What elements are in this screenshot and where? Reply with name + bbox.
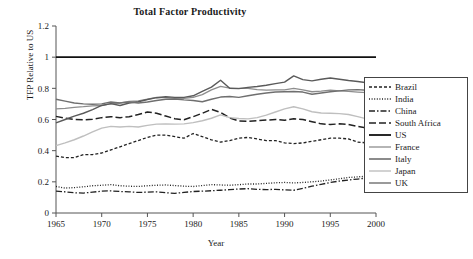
y-tick-label: 0.6 [38, 115, 50, 125]
legend-swatch-icon [368, 118, 392, 128]
y-tick-label: 1.2 [38, 21, 49, 31]
legend-item-uk[interactable]: UK [368, 177, 465, 189]
y-tick-label: 1 [45, 52, 50, 62]
y-tick-label: 0.2 [38, 177, 49, 187]
legend-item-france[interactable]: France [368, 141, 465, 153]
series-line-japan [56, 107, 376, 146]
y-tick-label: 0.4 [38, 146, 50, 156]
legend-label: India [395, 94, 414, 104]
legend-swatch-icon [368, 94, 392, 104]
x-tick-label: 1965 [47, 219, 66, 229]
legend-swatch-icon [368, 166, 392, 176]
legend-swatch-icon [368, 178, 392, 188]
legend-label: US [395, 130, 407, 140]
legend-label: South Africa [395, 118, 441, 128]
axes-group [52, 26, 376, 217]
legend-swatch-icon [368, 154, 392, 164]
series-line-india [56, 176, 376, 188]
legend-swatch-icon [368, 82, 392, 92]
legend-label: Japan [395, 166, 416, 176]
series-group [56, 57, 376, 193]
chart-figure: Total Factor Productivity TFP Relative t… [0, 0, 473, 259]
series-line-brazil [56, 134, 376, 158]
x-tick-label: 1985 [230, 219, 249, 229]
axis-spine [56, 26, 376, 213]
legend-item-south-africa[interactable]: South Africa [368, 117, 465, 129]
legend-label: Italy [395, 154, 412, 164]
y-tick-label: 0 [45, 208, 50, 218]
legend-item-china[interactable]: China [368, 105, 465, 117]
legend-item-us[interactable]: US [368, 129, 465, 141]
legend-swatch-icon [368, 142, 392, 152]
x-tick-label: 1995 [321, 219, 340, 229]
legend-label: UK [395, 178, 408, 188]
legend-label: China [395, 106, 417, 116]
y-axis-label: TFP Relative to US [25, 0, 35, 135]
x-tick-label: 2000 [367, 219, 386, 229]
legend-swatch-icon [368, 130, 392, 140]
legend-label: Brazil [395, 82, 417, 92]
x-tick-label: 1980 [184, 219, 203, 229]
tick-labels-group: 00.20.40.60.811.219651970197519801985199… [38, 21, 386, 229]
legend-item-brazil[interactable]: Brazil [368, 81, 465, 93]
chart-legend: BrazilIndiaChinaSouth AfricaUSFranceItal… [364, 77, 468, 193]
series-line-china [56, 177, 376, 193]
x-tick-label: 1975 [138, 219, 157, 229]
legend-label: France [395, 142, 420, 152]
legend-item-japan[interactable]: Japan [368, 165, 465, 177]
y-tick-label: 0.8 [38, 84, 50, 94]
x-tick-label: 1970 [93, 219, 112, 229]
chart-title: Total Factor Productivity [0, 6, 380, 17]
legend-item-italy[interactable]: Italy [368, 153, 465, 165]
series-line-south-africa [56, 109, 376, 128]
series-line-uk [56, 90, 376, 105]
x-tick-label: 1990 [276, 219, 295, 229]
legend-swatch-icon [368, 106, 392, 116]
legend-item-india[interactable]: India [368, 93, 465, 105]
x-axis-label: Year [56, 238, 376, 248]
